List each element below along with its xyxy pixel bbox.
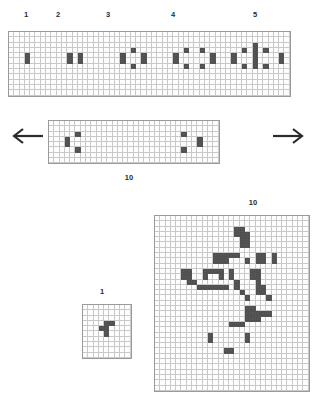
- figure-canvas: 1 2 3 4 5 10 1 10: [0, 0, 317, 395]
- bottom-right-label: 10: [246, 199, 260, 207]
- grid-cell-empty[interactable]: [303, 386, 308, 391]
- arrow-right-icon: [272, 126, 306, 146]
- middle-band-label: 10: [122, 174, 136, 182]
- top-band-label-5: 5: [250, 11, 260, 19]
- bottom-left-grid[interactable]: [82, 304, 132, 359]
- top-band-label-1: 1: [21, 11, 31, 19]
- grid-cell-empty[interactable]: [284, 90, 289, 95]
- top-band-label-4: 4: [168, 11, 178, 19]
- top-band-label-3: 3: [103, 11, 113, 19]
- bottom-right-grid[interactable]: [154, 215, 310, 392]
- top-band-grid[interactable]: [8, 31, 291, 97]
- top-band-label-2: 2: [53, 11, 63, 19]
- grid-cell-empty[interactable]: [213, 158, 218, 163]
- bottom-left-label: 1: [96, 288, 108, 296]
- arrow-left-icon: [10, 126, 44, 146]
- grid-cell-empty[interactable]: [125, 353, 130, 358]
- middle-band-grid[interactable]: [48, 120, 220, 164]
